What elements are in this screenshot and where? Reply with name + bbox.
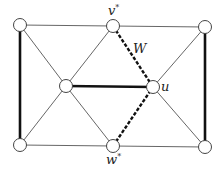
node-br <box>199 141 212 154</box>
edge-tl-vstar-thin <box>20 25 113 26</box>
edge-vstar-ml-thin <box>66 26 113 86</box>
edge-vstar-u-dashed <box>113 26 153 87</box>
u-label: u <box>161 79 169 94</box>
node-wstar <box>107 140 120 153</box>
node-ml <box>60 80 73 93</box>
edge-bl-wstar-thin <box>20 145 113 146</box>
node-tl <box>14 19 27 32</box>
edge-tl-ml-thin <box>20 25 66 86</box>
node-u <box>147 81 160 94</box>
vstar-label: v* <box>108 3 119 18</box>
edge-wstar-u-dashed <box>113 87 153 146</box>
graph-diagram: v*Wuw* <box>0 0 223 171</box>
edge-wstar-ml-thin <box>66 86 113 146</box>
edge-wstar-br-thin <box>113 146 205 147</box>
edge-vstar-tr-thin <box>113 26 205 27</box>
node-tr <box>199 21 212 34</box>
node-vstar <box>107 20 120 33</box>
edges-layer <box>20 25 205 147</box>
node-bl <box>14 139 27 152</box>
edge-br-u-thin <box>153 87 205 147</box>
graph-svg: v*Wuw* <box>0 0 223 171</box>
W-label: W <box>133 41 148 56</box>
wstar-label: w* <box>106 152 121 167</box>
edge-bl-ml-thin <box>20 86 66 145</box>
edge-tr-u-thin <box>153 27 205 87</box>
edge-ml-u-thick <box>66 86 153 87</box>
